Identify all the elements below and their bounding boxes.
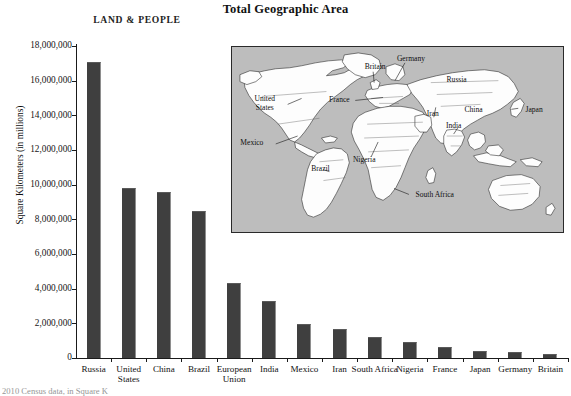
map-label-germany: Germany [397, 54, 425, 63]
y-tick-label: 6,000,000 [2, 249, 72, 258]
bar [473, 351, 487, 358]
x-tick-mark [217, 358, 218, 362]
bar [368, 337, 382, 358]
x-tick-mark [427, 358, 428, 362]
map-label-china: China [465, 105, 484, 114]
map-region-south-america [302, 148, 350, 217]
map-region-scandinavia [386, 64, 405, 81]
map-region-japan [510, 98, 524, 117]
x-tick-label: Britain [527, 364, 571, 374]
bar [192, 211, 206, 358]
y-axis-tick-group: 18,000,00016,000,00014,000,00012,000,000… [0, 0, 72, 394]
map-region-australia [488, 175, 540, 211]
x-tick-mark [498, 358, 499, 362]
x-tick-mark [568, 358, 569, 362]
x-tick-mark [533, 358, 534, 362]
y-tick-label: 12,000,000 [2, 145, 72, 154]
map-label-france: France [329, 95, 350, 104]
y-tick-label: 0 [2, 353, 72, 362]
y-tick-mark [72, 358, 76, 359]
map-region-madagascar [426, 168, 436, 184]
x-tick-mark [111, 358, 112, 362]
map-label-brazil: Brazil [311, 164, 329, 173]
map-label-india: India [446, 121, 462, 130]
y-tick-label: 2,000,000 [2, 319, 72, 328]
y-tick-label: 10,000,000 [2, 180, 72, 189]
y-tick-label: 14,000,000 [2, 111, 72, 120]
map-leader-south-africa [394, 188, 409, 194]
map-label-japan: Japan [526, 105, 543, 114]
map-label-britain: Britain [365, 62, 386, 71]
y-axis-title: Square Kilometers (in millions) [15, 65, 25, 265]
bar [543, 354, 557, 358]
map-label-south-africa: South Africa [416, 190, 455, 199]
x-tick-mark [357, 358, 358, 362]
world-map-inset: United States Mexico Brazil Britain Fran… [231, 46, 564, 233]
x-tick-mark [181, 358, 182, 362]
x-tick-mark [322, 358, 323, 362]
footer-note: 2010 Census data, in Square K [2, 386, 108, 396]
world-map-svg: United States Mexico Brazil Britain Fran… [232, 47, 563, 232]
map-label-united-states: United [255, 94, 276, 103]
bar [508, 352, 522, 358]
map-label-iran: Iran [427, 109, 439, 118]
map-region-caribbean [321, 136, 337, 143]
bar [333, 329, 347, 358]
bar [297, 324, 311, 358]
x-tick-mark [252, 358, 253, 362]
map-region-southeast-asia [468, 132, 486, 150]
map-label-russia: Russia [447, 75, 468, 84]
y-tick-label: 16,000,000 [2, 76, 72, 85]
x-tick-mark [392, 358, 393, 362]
x-tick-mark [463, 358, 464, 362]
bar [403, 342, 417, 358]
map-label-nigeria: Nigeria [353, 155, 376, 164]
section-label: LAND & PEOPLE [72, 14, 202, 25]
map-label-mexico: Mexico [240, 138, 263, 147]
bar [262, 301, 276, 358]
x-tick-mark [287, 358, 288, 362]
map-region-new-zealand [546, 203, 555, 215]
map-region-new-guinea [520, 158, 542, 167]
bar [87, 62, 101, 358]
y-tick-label: 4,000,000 [2, 284, 72, 293]
bar [227, 283, 241, 358]
bar [122, 188, 136, 358]
bar [438, 347, 452, 358]
y-tick-label: 18,000,000 [2, 41, 72, 50]
map-label-united-states-2: States [256, 103, 274, 112]
y-tick-label: 8,000,000 [2, 215, 72, 224]
bar [157, 192, 171, 358]
x-tick-mark [146, 358, 147, 362]
